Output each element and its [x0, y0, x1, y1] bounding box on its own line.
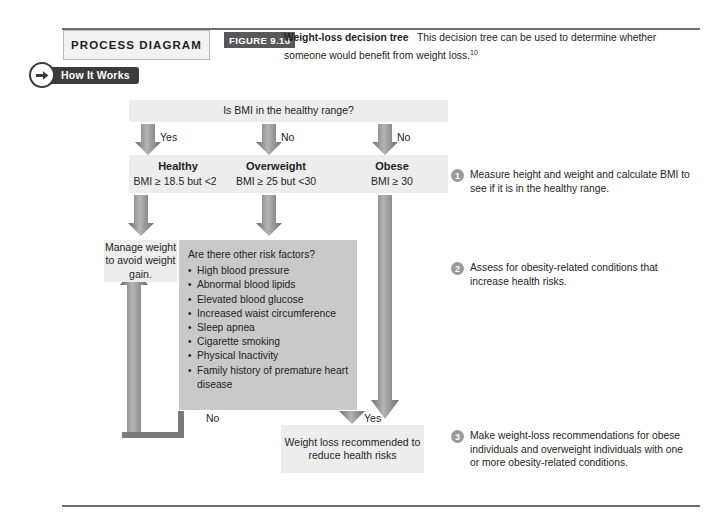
category-criteria-healthy: BMI ≥ 18.5 but <25	[134, 175, 223, 189]
outcome-box: Weight loss recommended to reduce health…	[281, 425, 424, 473]
step-number-badge: 2	[451, 262, 464, 275]
arrow-overweight-to-risk	[256, 195, 282, 236]
step-text: Measure height and weight and calculate …	[470, 168, 693, 195]
figure-caption-superscript: 10	[470, 49, 478, 56]
figure-page: PROCESS DIAGRAM How It Works FIGURE 9.16…	[0, 0, 711, 524]
list-item: Physical Inactivity	[188, 349, 351, 363]
arrow-right-icon	[29, 62, 55, 88]
risk-item-text: Increased waist circumference	[197, 308, 336, 319]
list-item: Increased waist circumference	[188, 307, 351, 321]
category-box-overweight: Overweight BMI ≥ 25 but <30	[216, 155, 336, 193]
risk-factors-heading: Are there other risk factors?	[188, 248, 351, 262]
step-number-badge: 3	[451, 430, 464, 443]
process-diagram-text: PROCESS DIAGRAM	[71, 39, 202, 51]
risk-item-text: Elevated blood glucose	[197, 294, 303, 305]
list-item: Sleep apnea	[188, 321, 351, 335]
arrow-healthy-to-manage	[128, 195, 154, 236]
manage-weight-box: Manage weight to avoid weight gain.	[104, 240, 177, 282]
category-box-obese: Obese BMI ≥ 30	[336, 155, 448, 193]
list-item: Elevated blood glucose	[188, 293, 351, 307]
list-item: Cigarette smoking	[188, 335, 351, 349]
bottom-rule	[62, 505, 700, 507]
process-diagram-label: PROCESS DIAGRAM	[63, 30, 210, 60]
arrow-question-to-overweight	[256, 124, 282, 155]
category-title-obese: Obese	[375, 160, 409, 174]
step-2: 2 Assess for obesity-related conditions …	[451, 261, 693, 288]
risk-item-text: Cigarette smoking	[197, 336, 280, 347]
manage-weight-text: Manage weight to avoid weight gain.	[104, 241, 177, 282]
branch-label-yes-healthy: Yes	[160, 131, 177, 143]
step-3: 3 Make weight-loss recommendations for o…	[451, 429, 693, 470]
risk-item-text: Family history of premature heart diseas…	[197, 365, 348, 390]
list-item: High blood pressure	[188, 264, 351, 278]
category-criteria-obese: BMI ≥ 30	[371, 175, 413, 189]
arrow-question-to-healthy	[135, 124, 161, 155]
how-it-works-pill: How It Works	[49, 67, 139, 84]
step-number-badge: 1	[451, 169, 464, 182]
decision-question-box: Is BMI in the healthy range?	[129, 100, 448, 122]
list-item: Abnormal blood lipids	[188, 278, 351, 292]
step-text: Assess for obesity-related conditions th…	[470, 261, 693, 288]
risk-factors-list: High blood pressure Abnormal blood lipid…	[188, 264, 351, 392]
arrow-obese-to-outcome	[371, 195, 399, 419]
branch-label-no-overweight: No	[281, 131, 294, 143]
list-item: Family history of premature heart diseas…	[188, 364, 351, 392]
branch-label-no-obese: No	[397, 131, 410, 143]
branch-label-yes-risk: Yes	[364, 412, 381, 424]
arrow-risk-yes-to-outcome	[339, 411, 365, 424]
arrow-question-to-obese	[372, 124, 398, 155]
branch-label-no-risk: No	[206, 412, 219, 424]
step-1: 1 Measure height and weight and calculat…	[451, 168, 693, 195]
risk-item-text: Abnormal blood lipids	[197, 279, 295, 290]
category-box-healthy: Healthy BMI ≥ 18.5 but <25	[129, 155, 227, 193]
category-title-overweight: Overweight	[246, 160, 306, 174]
risk-item-text: High blood pressure	[197, 265, 289, 276]
arrow-risk-no-loop-to-manage	[120, 266, 184, 439]
risk-item-text: Physical Inactivity	[197, 350, 278, 361]
step-text: Make weight-loss recommendations for obe…	[470, 429, 693, 470]
category-title-healthy: Healthy	[158, 160, 198, 174]
risk-item-text: Sleep apnea	[197, 322, 255, 333]
figure-title: Weight-loss decision tree	[284, 32, 409, 43]
category-criteria-overweight: BMI ≥ 25 but <30	[236, 175, 316, 189]
how-it-works-label: How It Works	[61, 69, 130, 81]
decision-question-text: Is BMI in the healthy range?	[223, 104, 354, 118]
outcome-text: Weight loss recommended to reduce health…	[281, 436, 424, 463]
risk-factors-box: Are there other risk factors? High blood…	[179, 240, 357, 410]
how-it-works-badge: How It Works	[29, 64, 139, 86]
figure-caption: Weight-loss decision tree This decision …	[284, 31, 699, 63]
